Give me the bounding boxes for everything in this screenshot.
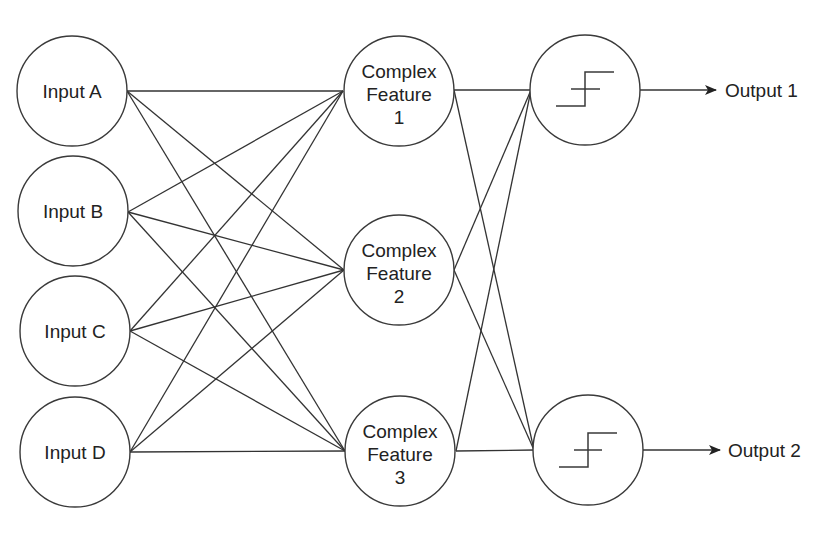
edge-b-f1 xyxy=(128,91,343,212)
input-node-c: Input C xyxy=(20,276,130,386)
input-a-label: Input A xyxy=(42,81,101,102)
edge-b-f2 xyxy=(128,212,344,270)
edge-c-f1 xyxy=(130,91,343,331)
input-node-d: Input D xyxy=(20,397,130,507)
feature-3-line-3: 3 xyxy=(395,467,406,488)
feature-1-line-3: 1 xyxy=(394,107,405,128)
edge-d-f1 xyxy=(130,91,343,452)
input-d-label: Input D xyxy=(44,442,105,463)
edge-a-f3 xyxy=(127,91,345,451)
input-feature-edges xyxy=(127,91,345,452)
feature-2-line-1: Complex xyxy=(362,240,437,261)
feature-3-line-1: Complex xyxy=(363,421,438,442)
input-b-label: Input B xyxy=(43,201,103,222)
feature-node-2: Complex Feature 2 xyxy=(344,215,454,325)
edge-d-f3 xyxy=(130,451,345,452)
feature-1-line-2: Feature xyxy=(366,84,431,105)
feature-2-line-3: 2 xyxy=(394,286,405,307)
edge-f3-o1 xyxy=(456,90,531,451)
edge-a-f2 xyxy=(127,91,344,270)
edge-c-f2 xyxy=(130,270,344,331)
edge-d-f2 xyxy=(130,270,344,452)
edge-f3-o2 xyxy=(456,450,534,451)
feature-2-line-2: Feature xyxy=(366,263,431,284)
feature-3-line-2: Feature xyxy=(367,444,432,465)
output-layer: Output 1 Output 2 xyxy=(530,35,801,505)
feature-layer: Complex Feature 1 Complex Feature 2 Comp… xyxy=(344,36,455,506)
output-arrows xyxy=(640,90,720,450)
edge-b-f3 xyxy=(128,212,345,451)
feature-node-1: Complex Feature 1 xyxy=(344,36,454,146)
feature-output-edges xyxy=(454,90,534,451)
edge-f2-o2 xyxy=(454,270,534,450)
input-node-b: Input B xyxy=(18,156,128,266)
input-layer: Input A Input B Input C Input D xyxy=(17,36,130,507)
neural-network-diagram: Input A Input B Input C Input D Complex … xyxy=(0,0,839,537)
edge-c-f3 xyxy=(130,331,345,451)
output-2-label: Output 2 xyxy=(728,440,801,461)
edge-f2-o1 xyxy=(454,90,531,270)
input-node-a: Input A xyxy=(17,36,127,146)
input-c-label: Input C xyxy=(44,321,105,342)
feature-node-3: Complex Feature 3 xyxy=(345,396,455,506)
output-1-label: Output 1 xyxy=(725,80,798,101)
feature-1-line-1: Complex xyxy=(362,61,437,82)
